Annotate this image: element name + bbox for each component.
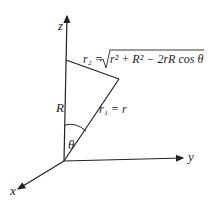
R-label: R	[56, 101, 64, 114]
x-axis	[18, 161, 64, 189]
z-axis-label: z	[58, 19, 63, 32]
r1-label: r₁ = r	[99, 103, 127, 115]
diagram: z y x R θ r₁ = r r₂ = r² + R² − 2rR cos …	[0, 0, 212, 200]
y-axis	[64, 158, 183, 161]
y-axis-label: y	[188, 150, 194, 163]
r2-label-lhs: r₂ =	[83, 53, 103, 65]
z-axis	[64, 16, 67, 161]
x-axis-label: x	[10, 184, 16, 197]
r2-label-rhs: r² + R² − 2rR cos θ	[110, 53, 203, 65]
theta-label: θ	[68, 138, 74, 151]
axes-figure	[0, 0, 212, 200]
theta-arc	[65, 124, 86, 131]
